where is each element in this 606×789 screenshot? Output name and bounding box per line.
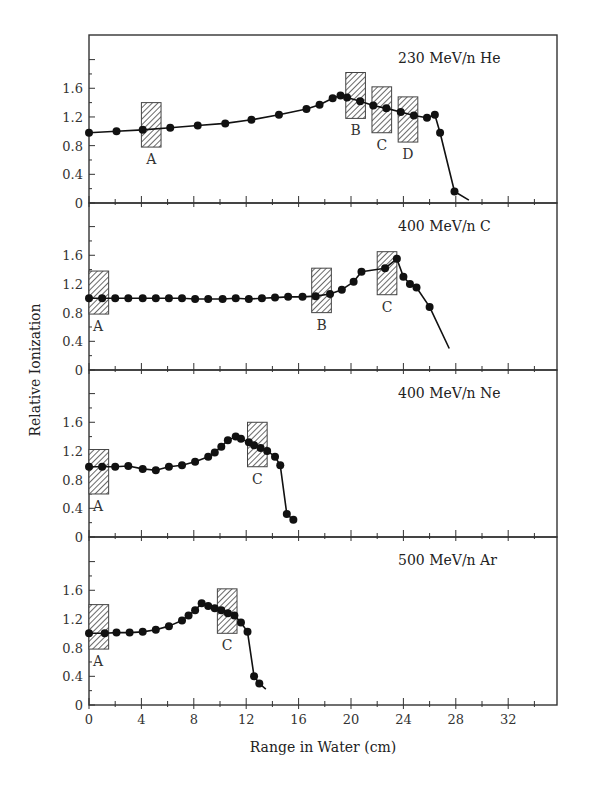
- hatched-box-A: [89, 450, 109, 494]
- data-point: [312, 292, 320, 300]
- data-point: [204, 453, 212, 461]
- data-point: [98, 463, 106, 471]
- data-point: [338, 286, 346, 294]
- x-tick-label: 28: [448, 712, 465, 727]
- data-point: [178, 294, 186, 302]
- y-tick-label: 0: [75, 698, 83, 713]
- data-point: [224, 436, 232, 444]
- data-point: [165, 622, 173, 630]
- data-point: [85, 294, 93, 302]
- data-point: [113, 629, 121, 637]
- y-tick-label: 0: [75, 196, 83, 211]
- data-point: [357, 268, 365, 276]
- y-tick-label: 0.8: [62, 641, 83, 656]
- data-point: [399, 273, 407, 281]
- chart-figure: 00.40.81.21.6230 MeV/n HeABCD00.40.81.21…: [0, 0, 606, 789]
- data-point: [244, 628, 252, 636]
- y-tick-label: 1.2: [62, 110, 83, 125]
- panel-4: 00.40.81.21.6500 MeV/n ArAC: [62, 537, 557, 713]
- data-point: [85, 129, 93, 137]
- y-tick-label: 0.4: [62, 501, 83, 516]
- data-point: [191, 458, 199, 466]
- x-tick-label: 24: [395, 712, 412, 727]
- data-point: [237, 435, 245, 443]
- panel-title: 400 MeV/n C: [398, 218, 491, 234]
- data-point: [152, 294, 160, 302]
- data-point: [98, 294, 106, 302]
- y-tick-label: 0.8: [62, 139, 83, 154]
- data-point: [204, 295, 212, 303]
- data-point: [178, 461, 186, 469]
- data-point: [219, 295, 227, 303]
- panel-title: 400 MeV/n Ne: [398, 385, 501, 401]
- data-point: [271, 453, 279, 461]
- x-tick-label: 16: [290, 712, 307, 727]
- y-tick-label: 1.6: [62, 248, 83, 263]
- data-point: [139, 294, 147, 302]
- y-tick-label: 0.8: [62, 473, 83, 488]
- data-point: [381, 264, 389, 272]
- data-point: [211, 448, 219, 456]
- x-tick-label: 12: [238, 712, 255, 727]
- data-point: [329, 94, 337, 102]
- data-point: [124, 462, 132, 470]
- data-point: [139, 126, 147, 134]
- data-point: [124, 294, 132, 302]
- hatched-box-A: [141, 103, 161, 147]
- panel-3: 00.40.81.21.6400 MeV/n NeAC: [62, 370, 557, 545]
- data-point: [426, 303, 434, 311]
- hatched-box-A: [89, 605, 109, 649]
- data-point: [410, 112, 418, 120]
- box-label: A: [92, 653, 104, 669]
- data-point: [431, 111, 439, 119]
- data-point: [450, 188, 458, 196]
- data-point: [369, 101, 377, 109]
- y-tick-label: 1.2: [62, 277, 83, 292]
- data-point: [217, 443, 225, 451]
- panels-group: 00.40.81.21.6230 MeV/n HeABCD00.40.81.21…: [62, 35, 557, 727]
- y-tick-label: 0.4: [62, 334, 83, 349]
- x-tick-label: 0: [85, 712, 93, 727]
- x-tick-label: 32: [500, 712, 517, 727]
- data-point: [393, 255, 401, 263]
- data-point: [111, 294, 119, 302]
- data-point: [139, 465, 147, 473]
- panel-2: 00.40.81.21.6400 MeV/n CABC: [62, 203, 557, 378]
- data-point: [275, 111, 283, 119]
- data-point: [382, 104, 390, 112]
- data-point: [250, 672, 258, 680]
- data-point: [113, 127, 121, 135]
- data-point: [276, 461, 284, 469]
- y-tick-label: 1.2: [62, 612, 83, 627]
- data-point: [111, 463, 119, 471]
- box-label: C: [382, 299, 393, 315]
- data-point: [356, 97, 364, 105]
- data-point: [397, 108, 405, 116]
- data-point: [237, 619, 245, 627]
- data-point: [302, 105, 310, 113]
- box-label: B: [350, 122, 360, 138]
- data-point: [165, 294, 173, 302]
- data-point: [258, 294, 266, 302]
- box-label: B: [316, 317, 326, 333]
- data-point: [194, 122, 202, 130]
- y-tick-label: 1.6: [62, 415, 83, 430]
- data-point: [101, 629, 109, 637]
- data-point: [436, 129, 444, 137]
- y-tick-label: 1.6: [62, 81, 83, 96]
- data-point: [85, 463, 93, 471]
- data-point: [247, 116, 255, 124]
- y-axis-title: Relative Ionization: [27, 303, 43, 436]
- y-tick-label: 1.6: [62, 583, 83, 598]
- box-label: C: [376, 137, 387, 153]
- panel-1: 00.40.81.21.6230 MeV/n HeABCD: [62, 35, 557, 211]
- data-point: [152, 626, 160, 634]
- y-tick-label: 0.4: [62, 167, 83, 182]
- data-point: [221, 119, 229, 127]
- x-tick-label: 8: [190, 712, 198, 727]
- box-label: A: [92, 318, 104, 334]
- box-label: C: [222, 637, 233, 653]
- data-point: [166, 124, 174, 132]
- data-point: [316, 101, 324, 109]
- data-point: [263, 447, 271, 455]
